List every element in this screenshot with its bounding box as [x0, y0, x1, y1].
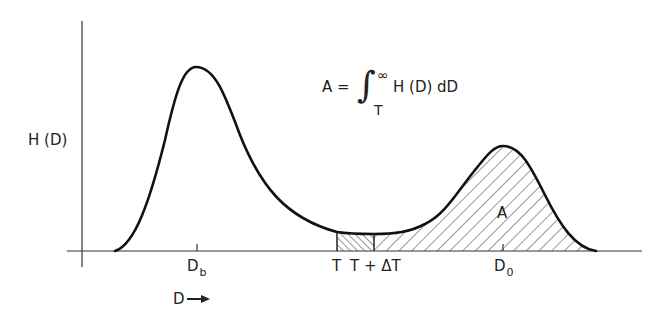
formula-integrand: H (D) dD: [393, 78, 458, 96]
tick-label-d0: D0: [494, 259, 514, 274]
tick-label-db: Db: [187, 259, 207, 274]
area-label: A: [497, 206, 507, 221]
integral-symbol: ∫: [357, 64, 376, 105]
y-axis-label: H (D): [28, 133, 67, 148]
formula-upper-limit: ∞: [377, 67, 389, 83]
hatch-area-a: [374, 100, 596, 251]
d0-main: D: [494, 257, 506, 275]
db-main: D: [187, 257, 199, 275]
shaded-area: [337, 100, 596, 251]
formula-lhs: A =: [322, 78, 350, 96]
d0-sub: 0: [507, 266, 514, 279]
hatch-t-to-tdt: [337, 100, 374, 251]
formula-lower-limit: T: [374, 102, 383, 118]
db-sub: b: [200, 266, 207, 279]
tick-label-t-plus-dt: T + ΔT: [350, 259, 401, 274]
x-direction-arrow-icon: [187, 295, 210, 303]
tick-label-t: T: [332, 259, 341, 274]
x-axis-label: D: [173, 292, 185, 307]
